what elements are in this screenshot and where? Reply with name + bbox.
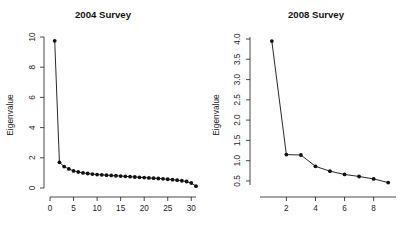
data-point-2004-8 [90,172,94,176]
panel-2004-survey: 2004 Survey Eigenvalue 0 2 4 6 8 10 [0,0,206,227]
y-tick-2008-1: 1.0 [233,155,242,167]
y-tick-2004-3: 6 [28,95,37,100]
y-tick-2004-1: 2 [28,155,37,160]
data-point-2004-19 [142,176,146,180]
data-point-2004-6 [81,171,85,175]
data-point-2008-7 [372,177,376,181]
y-tick-2004-4: 8 [28,64,37,69]
data-point-2008-1 [284,153,288,157]
data-point-2004-20 [147,176,151,180]
x-tick-2004-3: 15 [116,204,126,213]
y-axis-label-2004: Eigenvalue [5,94,15,136]
chart-2008-svg: 2008 Survey Eigenvalue 0.51.01.52.02.53.… [206,0,412,227]
data-point-2004-7 [86,172,90,176]
data-point-2008-4 [328,169,332,173]
data-point-2004-3 [67,167,71,171]
data-point-2004-25 [171,178,175,182]
data-point-2008-6 [357,175,361,179]
x-tick-2008-2: 6 [342,204,347,213]
x-tick-2008-1: 4 [313,204,318,213]
data-point-2004-1 [58,160,62,164]
data-point-2004-0 [53,39,57,43]
data-point-2004-12 [109,174,113,178]
data-point-2004-17 [133,175,137,179]
data-series-2008 [270,39,390,184]
data-point-2008-0 [270,39,274,43]
data-point-2004-4 [72,169,76,173]
panel-2008-survey: 2008 Survey Eigenvalue 0.51.01.52.02.53.… [206,0,412,227]
data-point-2004-10 [100,173,104,177]
data-point-2004-22 [156,177,160,181]
x-tick-2004-6: 30 [187,204,197,213]
data-line-2008 [272,41,388,183]
data-point-2004-18 [138,175,142,179]
data-point-2004-29 [189,181,193,185]
data-point-2008-8 [386,181,390,185]
y-tick-2008-0: 0.5 [233,175,242,187]
data-series-2004 [53,39,198,188]
data-point-2004-30 [194,184,198,188]
data-point-2004-24 [166,177,170,181]
x-tick-2004-2: 10 [93,204,103,213]
y-tick-2004-0: 0 [28,185,37,190]
data-point-2004-26 [175,178,179,182]
chart-title-2004: 2004 Survey [75,9,132,20]
x-axis-2004: 051015202530 [48,197,197,213]
y-tick-2008-4: 2.5 [233,94,242,106]
chart-2004-svg: 2004 Survey Eigenvalue 0 2 4 6 8 10 [0,0,206,227]
x-tick-2004-5: 25 [163,204,173,213]
data-point-2008-2 [299,153,303,157]
data-point-2004-11 [105,173,109,177]
data-point-2008-3 [314,164,318,168]
data-point-2004-9 [95,173,99,177]
y-axis-label-2008: Eigenvalue [211,94,221,136]
y-tick-2008-2: 1.5 [233,134,242,146]
x-axis-2008: 2468 [260,197,396,213]
x-tick-2008-0: 2 [284,204,289,213]
y-axis-2008: 0.51.01.52.02.53.03.54.0 [233,33,250,187]
data-point-2004-2 [62,165,66,169]
x-tick-2004-1: 5 [71,204,76,213]
y-tick-2008-5: 3.0 [233,73,242,85]
data-point-2008-5 [343,173,347,177]
scree-plot-figure: 2004 Survey Eigenvalue 0 2 4 6 8 10 [0,0,412,227]
y-axis-2004: 0 2 4 6 8 10 [28,32,44,190]
y-tick-2004-5: 10 [28,32,37,42]
x-tick-2008-3: 8 [371,204,376,213]
data-point-2004-27 [180,179,184,183]
data-point-2004-23 [161,177,165,181]
y-tick-2008-7: 4.0 [233,33,242,45]
x-tick-2004-4: 20 [140,204,150,213]
y-tick-2008-3: 2.0 [233,114,242,126]
data-point-2004-14 [119,174,123,178]
x-tick-2004-0: 0 [48,204,53,213]
data-line-2004 [55,41,196,186]
data-point-2004-28 [185,180,189,184]
y-tick-2004-2: 4 [28,125,37,130]
data-point-2004-21 [152,176,156,180]
chart-title-2008: 2008 Survey [288,9,345,20]
data-point-2004-15 [123,174,127,178]
data-point-2004-16 [128,175,132,179]
data-point-2004-13 [114,174,118,178]
y-tick-2008-6: 3.5 [233,53,242,65]
data-point-2004-5 [76,170,80,174]
